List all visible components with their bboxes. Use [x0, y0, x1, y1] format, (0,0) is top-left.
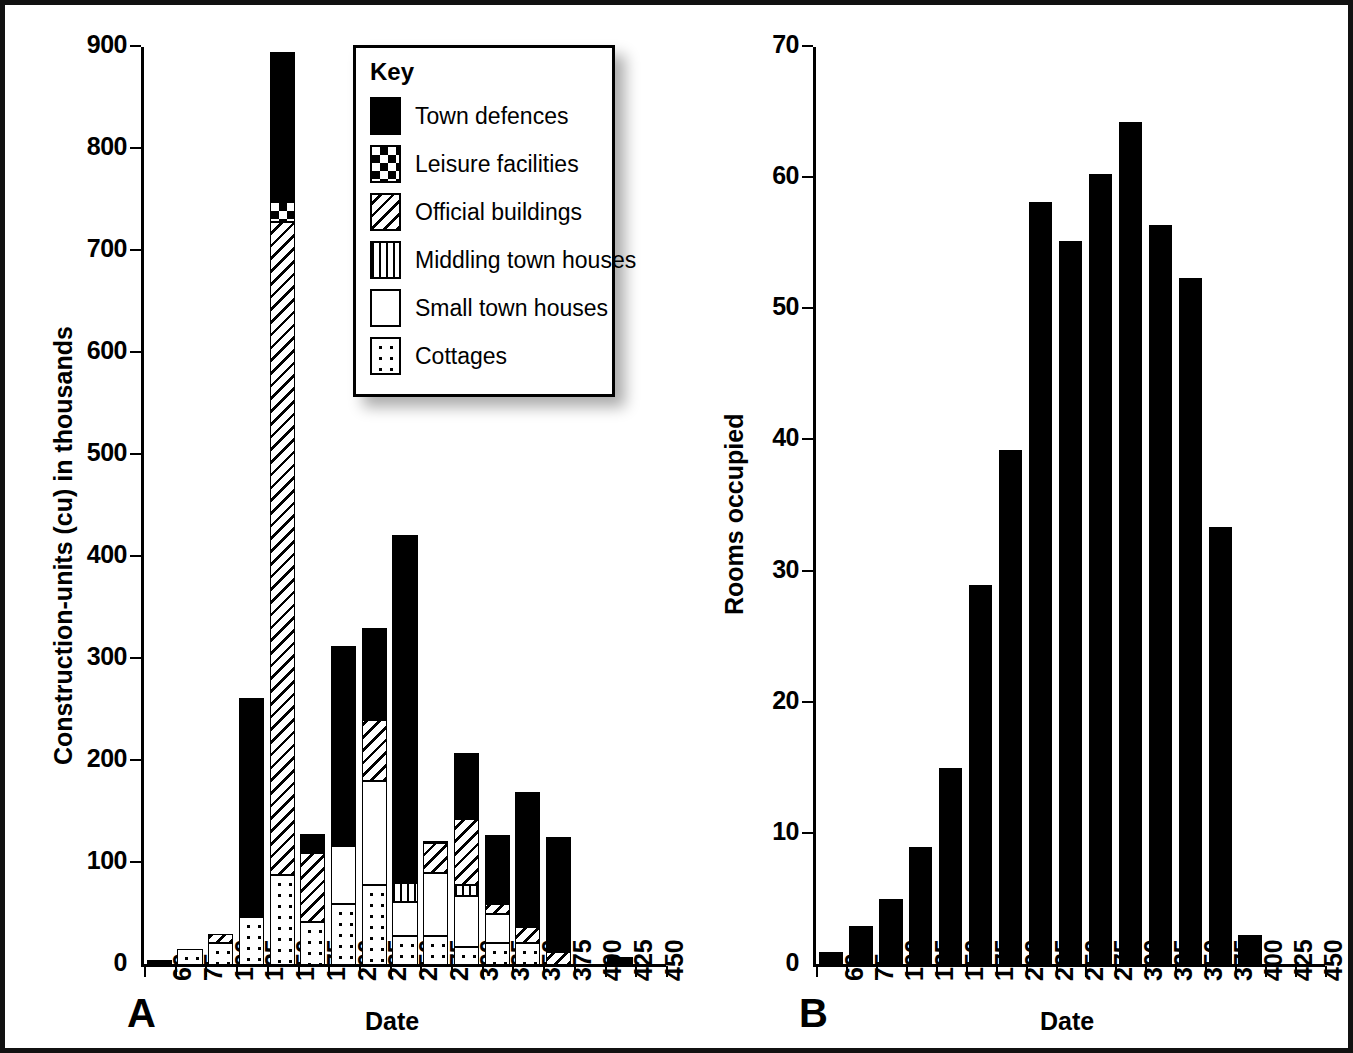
bar-segment-defences	[300, 834, 325, 852]
y-tick-mark	[130, 453, 141, 455]
bar-segment-cottages	[362, 885, 387, 965]
chart-panel-b: Rooms occupied 010203040506070 607510012…	[695, 5, 1348, 1048]
y-tick-label: 0	[709, 948, 799, 977]
plot-area-b	[816, 47, 1325, 965]
y-tick-label: 40	[709, 423, 799, 452]
legend-item-label: Leisure facilities	[415, 151, 579, 178]
bar-segment-defences	[239, 698, 264, 917]
y-tick-mark	[130, 555, 141, 557]
y-tick-mark	[802, 570, 813, 572]
legend-item-cottages: Cottages	[370, 332, 612, 380]
bar-a-150	[270, 47, 295, 965]
bar-segment-small	[392, 902, 417, 937]
bar-segment-small	[362, 781, 387, 885]
legend-item-label: Small town houses	[415, 295, 608, 322]
y-tick-label: 400	[37, 540, 127, 569]
bar-a-60	[147, 47, 172, 965]
y-tick-label: 0	[37, 948, 127, 977]
legend-swatch-official-icon	[370, 193, 401, 231]
bar-segment-defences	[485, 835, 510, 903]
y-tick-mark	[130, 351, 141, 353]
bar-segment-defences	[607, 957, 632, 965]
bar-b-200	[999, 450, 1022, 965]
bar-segment-defences	[454, 753, 479, 819]
y-tick-mark	[802, 438, 813, 440]
bar-b-100	[879, 899, 902, 965]
bar-segment-cottages	[239, 917, 264, 965]
bar-b-250	[1059, 241, 1082, 965]
bar-segment-official	[546, 952, 571, 965]
legend-key: Key Town defencesLeisure facilitiesOffic…	[353, 45, 615, 397]
y-tick-mark	[130, 861, 141, 863]
legend-swatch-cottages-icon	[370, 337, 401, 375]
bar-b-75	[849, 926, 872, 965]
bar-b-175	[969, 585, 992, 965]
y-tick-label: 60	[709, 161, 799, 190]
y-tick-mark	[802, 701, 813, 703]
bar-segment-official	[454, 819, 479, 885]
bar-segment-small	[423, 873, 448, 936]
legend-item-label: Cottages	[415, 343, 507, 370]
y-tick-label: 200	[37, 744, 127, 773]
bar-segment-middling	[454, 885, 479, 895]
y-tick-label: 900	[37, 30, 127, 59]
legend-item-label: Official buildings	[415, 199, 582, 226]
legend-swatch-defences-icon	[370, 97, 401, 135]
legend-swatch-small-icon	[370, 289, 401, 327]
legend-item-leisure: Leisure facilities	[370, 140, 612, 188]
y-tick-mark	[130, 45, 141, 47]
bar-segment-cottages	[300, 922, 325, 965]
bar-a-450	[638, 47, 663, 965]
figure-inner: Construction-units (cu) in thousands 010…	[5, 5, 1348, 1048]
bar-segment-official	[485, 904, 510, 914]
y-tick-label: 300	[37, 642, 127, 671]
x-axis-title-b: Date	[1040, 1007, 1094, 1036]
y-tick-mark	[802, 176, 813, 178]
legend-title: Key	[370, 58, 612, 86]
legend-item-defences: Town defences	[370, 92, 612, 140]
y-tick-label: 100	[37, 846, 127, 875]
y-tick-label: 500	[37, 438, 127, 467]
y-tick-mark	[802, 832, 813, 834]
y-tick-mark	[802, 307, 813, 309]
bar-b-125	[909, 847, 932, 965]
panel-letter-a: A	[127, 991, 156, 1036]
bar-b-150	[939, 768, 962, 965]
y-tick-label: 20	[709, 686, 799, 715]
legend-item-small: Small town houses	[370, 284, 612, 332]
bar-segment-official	[270, 222, 295, 875]
bar-b-375	[1209, 527, 1232, 965]
bar-segment-official	[362, 720, 387, 781]
figure-page: Construction-units (cu) in thousands 010…	[0, 0, 1353, 1053]
bar-a-175	[300, 47, 325, 965]
y-tick-mark	[130, 249, 141, 251]
bar-segment-defences	[270, 52, 295, 202]
bar-segment-cottages	[331, 904, 356, 965]
bar-segment-cottages	[392, 936, 417, 965]
bar-b-275	[1089, 174, 1112, 965]
bar-segment-small	[331, 846, 356, 904]
bar-segment-defences	[362, 628, 387, 720]
bar-b-400	[1238, 935, 1261, 965]
bar-segment-official	[208, 934, 233, 942]
bar-a-125	[239, 47, 264, 965]
bar-segment-cottages	[177, 949, 202, 965]
bar-b-225	[1029, 202, 1052, 965]
bar-segment-defences	[392, 535, 417, 884]
panel-letter-b: B	[799, 991, 828, 1036]
y-tick-label: 600	[37, 336, 127, 365]
bar-segment-cottages	[485, 943, 510, 965]
y-tick-mark	[130, 147, 141, 149]
y-tick-mark	[130, 759, 141, 761]
legend-item-label: Middling town houses	[415, 247, 636, 274]
x-tick-mark	[144, 966, 146, 977]
bar-segment-cottages	[208, 943, 233, 965]
legend-swatch-middling-icon	[370, 241, 401, 279]
y-tick-label: 70	[709, 30, 799, 59]
y-tick-mark	[802, 45, 813, 47]
bar-segment-cottages	[454, 947, 479, 965]
y-tick-label: 800	[37, 132, 127, 161]
bar-b-60	[819, 952, 842, 965]
bar-segment-cottages	[515, 943, 540, 965]
bar-b-350	[1179, 278, 1202, 965]
